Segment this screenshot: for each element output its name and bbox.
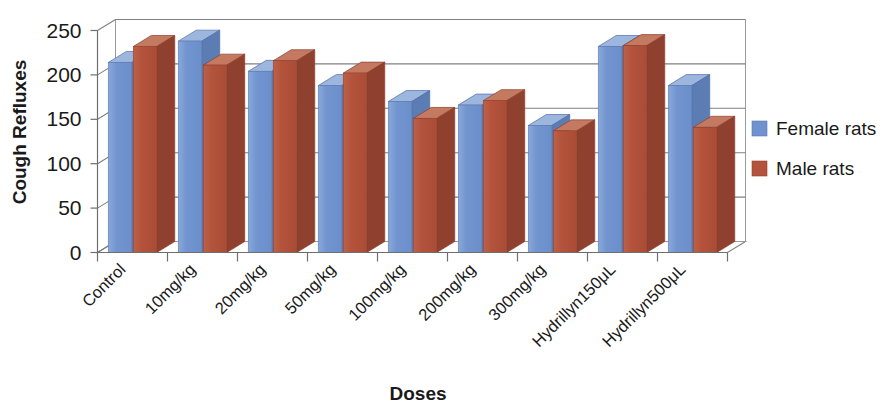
cough-refluxes-bar-chart: 050100150200250 Control10mg/kg20mg/kg50m… bbox=[0, 0, 885, 407]
bar-group bbox=[598, 35, 665, 253]
y-axis-tick-label: 50 bbox=[58, 196, 81, 219]
bar-front-face bbox=[458, 105, 482, 252]
bar-side-face bbox=[507, 90, 525, 253]
bar bbox=[133, 35, 175, 252]
bar-side-face bbox=[577, 120, 595, 253]
bar-side-face bbox=[647, 35, 665, 253]
bar-front-face bbox=[203, 65, 227, 252]
bar bbox=[343, 62, 385, 252]
bar bbox=[623, 35, 665, 253]
legend-label: Male rats bbox=[776, 158, 854, 179]
x-axis-title: Doses bbox=[389, 383, 446, 404]
bar-group bbox=[318, 62, 385, 252]
bar-group bbox=[388, 91, 455, 253]
bar-front-face bbox=[598, 46, 622, 252]
bar-front-face bbox=[108, 62, 132, 252]
y-axis-tick-label: 250 bbox=[46, 19, 81, 42]
bar-side-face bbox=[367, 62, 385, 252]
bar-front-face bbox=[248, 71, 272, 252]
x-axis-category-label: 300mg/kg bbox=[485, 260, 549, 324]
x-axis-category-label: 100mg/kg bbox=[345, 260, 409, 324]
bar-group bbox=[108, 35, 175, 252]
bar-front-face bbox=[483, 101, 507, 253]
bar-side-face bbox=[227, 54, 245, 252]
bar-side-face bbox=[717, 116, 735, 252]
bar-group bbox=[528, 115, 595, 253]
bar-group bbox=[248, 50, 315, 253]
category-labels: Control10mg/kg20mg/kg50mg/kg100mg/kg200m… bbox=[78, 260, 688, 350]
bar bbox=[483, 90, 525, 253]
bar-front-face bbox=[693, 127, 717, 252]
bar-group bbox=[458, 90, 525, 253]
bar bbox=[273, 50, 315, 253]
bar-front-face bbox=[133, 46, 157, 252]
bar-front-face bbox=[388, 102, 412, 253]
bar-front-face bbox=[318, 86, 342, 253]
bar-side-face bbox=[297, 50, 315, 253]
x-axis-category-label: 10mg/kg bbox=[141, 260, 198, 317]
bar-front-face bbox=[178, 41, 202, 252]
bar-front-face bbox=[623, 46, 647, 253]
bar-front-face bbox=[553, 131, 577, 253]
depth-connector bbox=[98, 20, 116, 31]
x-axis-category-label: 200mg/kg bbox=[415, 260, 479, 324]
chart-canvas: 050100150200250 Control10mg/kg20mg/kg50m… bbox=[0, 0, 885, 407]
bar-front-face bbox=[528, 126, 552, 253]
bar-front-face bbox=[273, 61, 297, 253]
y-axis-tick-label: 100 bbox=[46, 152, 81, 175]
bar-side-face bbox=[437, 107, 455, 252]
legend-label: Female rats bbox=[776, 118, 876, 139]
bar-front-face bbox=[343, 73, 367, 252]
x-axis-category-label: 20mg/kg bbox=[211, 260, 268, 317]
legend-swatch bbox=[752, 161, 767, 176]
bar-side-face bbox=[157, 35, 175, 252]
y-axis-tick-label: 150 bbox=[46, 107, 81, 130]
y-axis-title: Cough Refluxes bbox=[9, 60, 30, 205]
bar-front-face bbox=[413, 118, 437, 252]
bar bbox=[553, 120, 595, 253]
bar bbox=[413, 107, 455, 252]
x-axis-category-label: 50mg/kg bbox=[281, 260, 338, 317]
y-axis-tick-label: 0 bbox=[70, 241, 82, 264]
y-axis-tick-label: 200 bbox=[46, 63, 81, 86]
x-axis-category-label: Control bbox=[78, 260, 128, 310]
chart-legend: Female ratsMale rats bbox=[752, 118, 876, 179]
bar bbox=[693, 116, 735, 252]
bar-front-face bbox=[668, 86, 692, 253]
legend-swatch bbox=[752, 121, 767, 136]
bar-group bbox=[178, 30, 245, 252]
bar bbox=[203, 54, 245, 252]
